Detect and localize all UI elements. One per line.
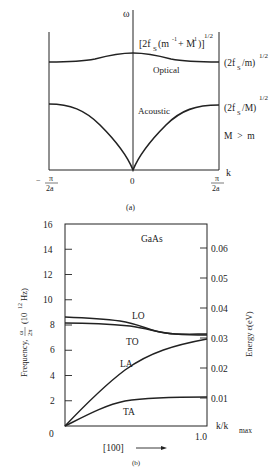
mass-condition: M > m [224, 131, 255, 141]
svg-text:1/2: 1/2 [204, 32, 213, 40]
svg-text:12: 12 [17, 303, 23, 309]
svg-text:4: 4 [50, 371, 55, 381]
right-axis-tick-labels: 0.01 0.02 0.03 0.04 0.05 0.06 [211, 244, 228, 404]
la-branch-curve [65, 339, 207, 426]
right-axis-label: Energy ε(eV) [244, 311, 254, 357]
acoustic-label: Acoustic [138, 106, 170, 116]
caption-a: (a) [126, 203, 135, 212]
svg-text:0.04: 0.04 [211, 304, 228, 314]
svg-text:16: 16 [43, 220, 53, 230]
left-axis-label: Frequency, ω 2π (10 12 Hz) [17, 288, 33, 377]
svg-text:(2f: (2f [224, 103, 236, 114]
svg-text:-1: -1 [192, 36, 197, 42]
svg-text:2: 2 [50, 396, 55, 406]
arrowhead-icon [161, 446, 167, 450]
svg-text:1/2: 1/2 [259, 52, 268, 60]
svg-text:k/k: k/k [216, 421, 228, 431]
svg-text:S: S [153, 45, 157, 53]
right-axis-ticks [200, 248, 207, 398]
svg-text:Hz): Hz) [19, 288, 29, 301]
svg-text:0.03: 0.03 [211, 334, 228, 344]
x-tick-end: 1.0 [195, 432, 207, 442]
tick-pi-over-2a: π 2a [211, 174, 224, 193]
left-axis-ticks [65, 249, 72, 401]
svg-text:12: 12 [43, 270, 53, 280]
svg-text:2π: 2π [26, 329, 33, 336]
svg-text:Frequency,: Frequency, [19, 340, 29, 377]
svg-text:/m): /m) [242, 58, 255, 69]
svg-text:(2f: (2f [224, 58, 236, 69]
optical-label: Optical [153, 65, 180, 75]
svg-text:ω: ω [17, 330, 24, 335]
la-label: LA [120, 359, 133, 369]
omega-axis-label: ω [123, 8, 130, 19]
svg-text:-1: -1 [172, 36, 177, 42]
ta-label: TA [123, 407, 135, 417]
svg-text:[2f: [2f [139, 38, 151, 49]
material-label: GaAs [141, 234, 163, 244]
svg-text:/M): /M) [242, 103, 256, 114]
svg-text:2a: 2a [46, 184, 54, 193]
svg-text:max: max [239, 426, 252, 435]
svg-text:π: π [49, 174, 53, 183]
k-axis-label: k [226, 167, 231, 178]
lo-label: LO [132, 311, 145, 321]
svg-text:6: 6 [50, 345, 55, 355]
svg-text:0: 0 [49, 429, 54, 439]
tick-zero: 0 [130, 176, 135, 186]
svg-text:0.06: 0.06 [211, 244, 228, 254]
svg-text:8: 8 [50, 320, 55, 330]
svg-text:0.05: 0.05 [211, 274, 228, 284]
panel-a: ω k Optical Acoustic [2f S (m -1 + M -1 … [36, 8, 268, 212]
svg-text:10: 10 [43, 295, 53, 305]
panel-b: 0 2 4 6 8 10 12 14 16 0.01 0.02 0.03 0.0… [17, 220, 254, 467]
ta-branch-curve [65, 397, 207, 426]
svg-text:(m: (m [158, 38, 169, 50]
optical-edge-formula: (2f S /m) 1/2 [224, 52, 268, 71]
acoustic-edge-formula: (2f S /M) 1/2 [224, 94, 268, 116]
svg-text:(10: (10 [19, 313, 29, 324]
to-label: TO [126, 337, 139, 347]
optical-branch-curve [49, 53, 219, 62]
svg-text:−: − [36, 176, 41, 185]
svg-text:0.01: 0.01 [211, 394, 228, 404]
svg-text:2a: 2a [212, 184, 220, 193]
left-axis-tick-labels: 0 2 4 6 8 10 12 14 16 [43, 220, 55, 439]
acoustic-branch-curve [49, 104, 219, 170]
svg-text:S: S [237, 109, 241, 116]
optical-max-formula: [2f S (m -1 + M -1 )] 1/2 [139, 32, 213, 53]
svg-text:S: S [237, 64, 241, 71]
svg-text:0.02: 0.02 [211, 364, 228, 374]
tick-minus-pi-over-2a: − π 2a [36, 174, 58, 193]
svg-text:14: 14 [43, 245, 53, 255]
x-axis-label: k/k max [216, 421, 252, 435]
svg-text:π: π [215, 174, 219, 183]
svg-text:1/2: 1/2 [259, 94, 268, 102]
figure-canvas: ω k Optical Acoustic [2f S (m -1 + M -1 … [0, 0, 274, 475]
direction-indicator: [100] [103, 443, 167, 453]
caption-b: (b) [132, 459, 141, 467]
svg-text:[100]: [100] [103, 443, 124, 453]
